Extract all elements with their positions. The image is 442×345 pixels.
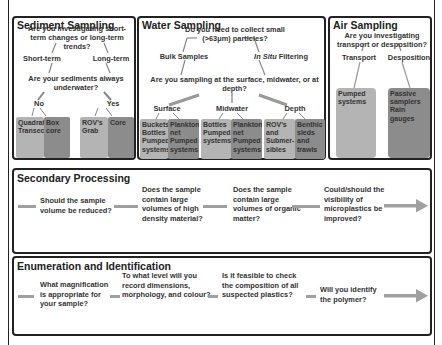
water-bulk-samples: Bulk Samples [149,52,219,61]
panel-water-sampling: Water Sampling Do you need to collect sm… [137,16,326,160]
method-rovs-grab: ROV's Grab [80,117,108,158]
connector-line [203,205,227,208]
connector-line [18,295,34,298]
in-situ-italic: In Situ [254,52,277,61]
connector-line [18,205,36,208]
connector-line [110,295,120,298]
water-question-2: Are you sampling at the surface, midwate… [147,75,322,93]
water-midwater: Midwater [209,104,255,113]
enumeration-step-3: Is it feasible to check the composition … [222,271,306,300]
method-plankton-net-surface: Plankton net Pumped systems [168,119,199,159]
air-deposition: Desposition [386,53,432,62]
connector-line [292,205,320,208]
connector-line [306,295,316,298]
sediment-question-1: Are you investigating short-term changes… [20,24,134,51]
air-title: Air Sampling [333,19,398,31]
method-quadrat-transect: Quadrat Transect [16,117,44,158]
water-in-situ-filtering: In Situ Filtering [241,52,321,61]
panel-enumeration-identification: Enumeration and Identification What magn… [12,256,432,336]
arrow-right-icon [384,289,428,303]
sediment-short-term: Short-term [19,54,65,63]
enumeration-step-4: Will you identify the polymer? [320,285,384,304]
method-box-core: Box core [44,117,70,158]
sediment-yes: Yes [98,99,128,108]
method-rovs-submersibles: ROV's and Submer-sibles [264,119,295,159]
method-benthic-sleds-trawls: Benthic sleds and trawls [295,119,325,159]
water-depth: Depth [275,104,315,113]
arrow-right-icon [384,199,428,213]
method-air-pumped-systems: Pumped systems [336,88,376,158]
sediment-question-2: Are your sediments always underwater? [24,74,128,92]
secondary-step-1: Should the sample volume be reduced? [40,196,120,215]
secondary-title: Secondary Processing [17,172,130,184]
air-question-1: Are you investigating transport or despo… [336,31,428,49]
enumeration-step-1: What magnification is appropriate for yo… [40,280,110,309]
air-transport: Transport [336,53,382,62]
method-passive-samplers-rain-gauges: Passive samplers Rain gauges [388,88,430,158]
sediment-long-term: Long-term [88,54,134,63]
panel-sediment-sampling: Sediment Sampling Are you investigating … [12,16,136,160]
panel-secondary-processing: Secondary Processing Should the sample v… [12,168,432,254]
water-surface: Surface [147,104,187,113]
method-bottles-pumped: Bottles Pumped systems [201,119,231,159]
method-plankton-net-midwater: Plankton net Pumped systems [231,119,262,159]
connector-line [114,205,138,208]
enumeration-step-2: To what level will you record dimensions… [122,271,212,300]
sediment-no: No [24,99,54,108]
in-situ-rest: Filtering [277,52,308,61]
method-core: Core [108,117,134,158]
panel-air-sampling: Air Sampling Are you investigating trans… [328,16,432,160]
method-buckets-bottles-pumped: Buckets Bottles Pumped systems [140,119,168,159]
water-question-1: Do you need to collect small (>63μm) par… [179,25,291,43]
connector-line [208,295,218,298]
